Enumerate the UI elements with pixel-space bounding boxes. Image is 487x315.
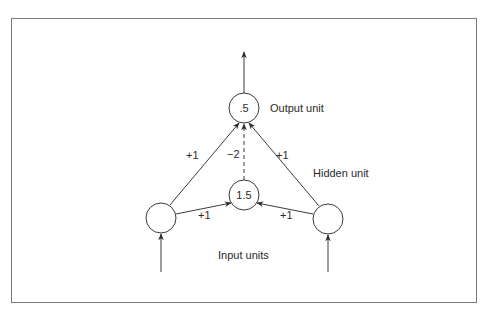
- edge-right-to-output: [249, 123, 319, 206]
- weight-left-to-output: +1: [186, 149, 199, 161]
- input-units-label: Input units: [218, 249, 269, 261]
- network-diagram: .5 1.5 Output unit Hidden unit Input uni…: [0, 0, 487, 315]
- output-unit-value: .5: [239, 102, 248, 114]
- hidden-unit-label: Hidden unit: [313, 167, 369, 179]
- weight-right-to-output: +1: [276, 149, 289, 161]
- hidden-unit-value: 1.5: [236, 189, 251, 201]
- weight-left-to-hidden: +1: [198, 209, 211, 221]
- input-unit-left-node: [146, 203, 176, 233]
- input-unit-right-node: [313, 204, 343, 234]
- weight-right-to-hidden: +1: [280, 209, 293, 221]
- edge-left-to-output: [170, 123, 239, 205]
- output-unit-label: Output unit: [270, 102, 324, 114]
- weight-hidden-to-output: −2: [227, 148, 240, 160]
